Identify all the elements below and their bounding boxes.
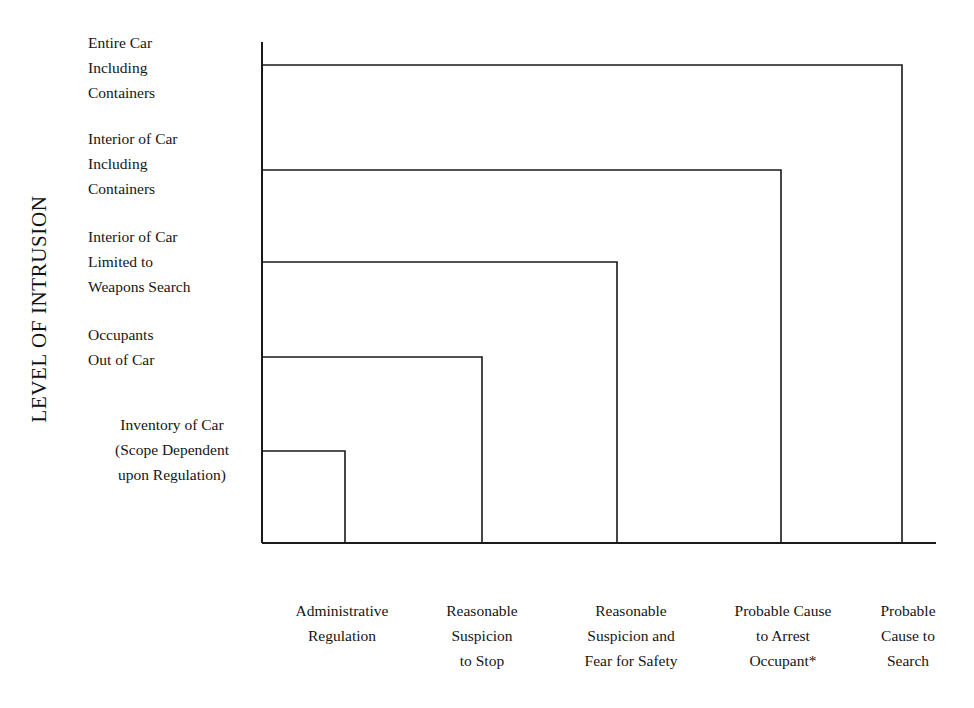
step-entire-car (262, 65, 902, 543)
step-inventory (262, 451, 345, 543)
y-label-interior-weapons: Interior of Car Limited to Weapons Searc… (88, 224, 264, 299)
y-label-occupants-out: Occupants Out of Car (88, 322, 264, 372)
y-label-inventory: Inventory of Car (Scope Dependent upon R… (80, 412, 264, 487)
y-label-entire-car: Entire Car Including Containers (88, 30, 264, 105)
y-label-interior-containers: Interior of Car Including Containers (88, 126, 264, 201)
x-label-reasonable-suspicion-stop: Reasonable Suspicion to Stop (412, 598, 552, 673)
x-category-labels: Administrative Regulation Reasonable Sus… (0, 598, 974, 708)
x-label-administrative-regulation: Administrative Regulation (254, 598, 430, 648)
step-occupants-out (262, 357, 482, 543)
step-interior-weapons (262, 262, 617, 543)
x-label-reasonable-suspicion-safety: Reasonable Suspicion and Fear for Safety (547, 598, 715, 673)
x-label-probable-cause-search: Probable Cause to Search (858, 598, 958, 673)
x-label-probable-cause-arrest: Probable Cause to Arrest Occupant* (698, 598, 868, 673)
intrusion-step-chart: LEVEL OF INTRUSION Entire Car Including … (0, 0, 974, 708)
